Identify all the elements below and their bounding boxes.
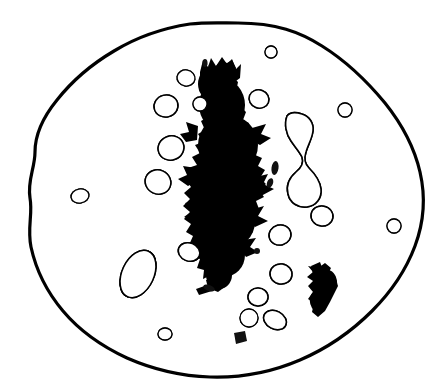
dark-fragment (254, 248, 260, 254)
cell-membrane (158, 328, 172, 340)
cell-diagram-svg (0, 0, 437, 391)
small-cell (248, 288, 268, 306)
small-cell (338, 103, 352, 117)
small-cell (193, 97, 207, 111)
cell-membrane (248, 288, 268, 306)
figure-canvas: Histological line drawing of a cell with… (0, 0, 437, 391)
cell-membrane (338, 103, 352, 117)
cell-membrane (193, 97, 207, 111)
cell-membrane (240, 309, 258, 327)
dark-fragment (203, 59, 208, 67)
cell-membrane (387, 219, 401, 233)
small-cell (387, 219, 401, 233)
small-cell (158, 328, 172, 340)
small-cell (265, 46, 277, 58)
small-cell (240, 309, 258, 327)
cell-membrane (265, 46, 277, 58)
